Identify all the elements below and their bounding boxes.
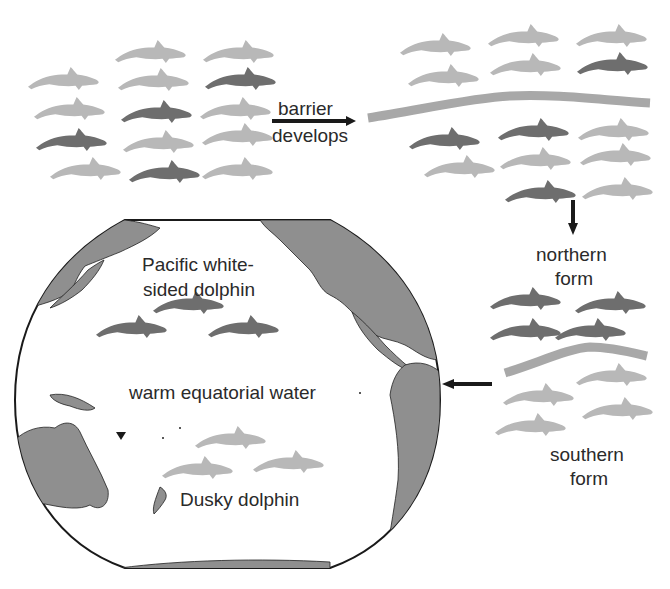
dolphin-icon (500, 147, 571, 170)
arrow-left-icon (442, 379, 492, 389)
northern-species-label-line1: Pacific white- (142, 254, 254, 275)
barrier-band-bottom (505, 347, 647, 373)
dolphin-icon (555, 318, 626, 341)
dolphin-icon (582, 397, 653, 420)
dolphin-icon (505, 180, 576, 203)
dolphin-icon (203, 40, 274, 63)
dolphin-icon (50, 157, 121, 180)
dolphin-icon (582, 177, 653, 200)
dolphin-icon (490, 53, 561, 76)
dolphin-icon (121, 100, 192, 123)
barrier-label-line2: develops (272, 125, 348, 147)
dolphin-icon (129, 160, 200, 183)
dolphin-icon (34, 97, 105, 120)
arrow-down-icon (568, 200, 578, 235)
dolphin-icon (490, 318, 561, 341)
dolphin-icon (28, 67, 99, 90)
barrier-band-top (368, 96, 650, 118)
dolphin-icon (202, 157, 273, 180)
dolphin-icon (576, 363, 647, 386)
dolphin-icon (408, 64, 479, 87)
dolphin-icon (202, 123, 273, 146)
dolphin-icon (578, 118, 649, 141)
dolphin-icon (490, 287, 561, 310)
dolphin-icon (576, 24, 647, 47)
dolphin-icon (495, 413, 566, 436)
dolphin-icon (115, 40, 186, 63)
dolphin-icon (36, 128, 107, 151)
diagram-canvas: Pacific white- sided dolphin warm equato… (0, 0, 670, 589)
dolphin-icon (205, 67, 276, 90)
southern-species-label: Dusky dolphin (180, 489, 299, 510)
dolphin-icon (123, 130, 194, 153)
northern-form-label-line1: northern (536, 244, 607, 266)
dolphin-icon (200, 97, 271, 120)
dolphin-icon (409, 127, 480, 150)
dolphin-icon (488, 24, 559, 47)
barrier-label-line1: barrier (278, 98, 333, 120)
southern-form-label-line2: form (570, 468, 608, 490)
dolphin-icon (577, 52, 648, 75)
dolphin-icon (424, 155, 495, 178)
ocean-label: warm equatorial water (128, 382, 317, 403)
dolphin-icon (118, 68, 189, 91)
speciation-diagram: Pacific white- sided dolphin warm equato… (0, 0, 670, 589)
dolphin-icon (400, 33, 471, 56)
dolphin-icon (503, 383, 574, 406)
southern-form-label-line1: southern (550, 444, 624, 466)
northern-species-label-line2: sided dolphin (143, 279, 255, 300)
dolphin-icon (498, 118, 569, 141)
dolphin-icon (575, 291, 646, 314)
dolphin-icon (580, 143, 651, 166)
northern-form-label-line2: form (555, 268, 593, 290)
